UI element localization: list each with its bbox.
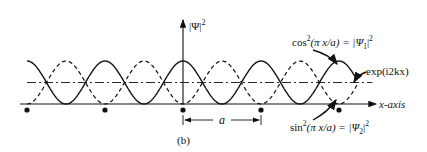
exp-annotation: exp(i2kx) — [366, 65, 409, 78]
panel-label: (b) — [177, 134, 190, 147]
ion-dot — [180, 107, 185, 112]
ion-dot — [102, 107, 107, 112]
ion-dot — [336, 107, 341, 112]
ion-cores — [24, 107, 341, 112]
sin-squared-annotation: sin2(π x/a) = |Ψ2|2 — [290, 119, 369, 136]
band-gap-wavefunction-diagram: x-axis |Ψ|2 a (b) cos2(π x/a) = |Ψ1|2 ex… — [0, 0, 427, 152]
ion-dot — [24, 107, 29, 112]
y-axis-label: |Ψ|2 — [189, 18, 206, 32]
ion-dot — [258, 107, 263, 112]
cos-annotation-arrow — [313, 50, 337, 64]
sin-annotation-arrow — [313, 100, 336, 120]
cos-squared-annotation: cos2(π x/a) = |Ψ1|2 — [292, 34, 373, 51]
x-axis-label: x-axis — [378, 98, 405, 110]
period-label: a — [219, 113, 225, 127]
exp-annotation-arrow — [354, 72, 366, 82]
